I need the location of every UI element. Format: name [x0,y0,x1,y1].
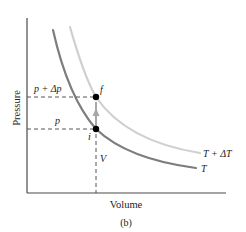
label-point-f: f [100,84,104,95]
x-axis-label: Volume [110,199,143,210]
label-curve-t: T [201,163,208,174]
label-curve-t-plus-dt: T + ΔT [203,148,233,159]
label-volume-v: V [100,153,108,164]
y-axis-label: Pressure [11,90,22,126]
label-point-i: i [88,131,91,142]
panel-label: (b) [120,217,132,229]
pv-diagram: p + Δp p f i V T + ΔT T Volume Pressure … [0,0,246,232]
arrow-head-icon [93,108,100,116]
label-p: p [54,115,60,126]
point-i [93,126,99,132]
label-p-plus-dp: p + Δp [33,83,62,94]
point-f [93,94,99,100]
